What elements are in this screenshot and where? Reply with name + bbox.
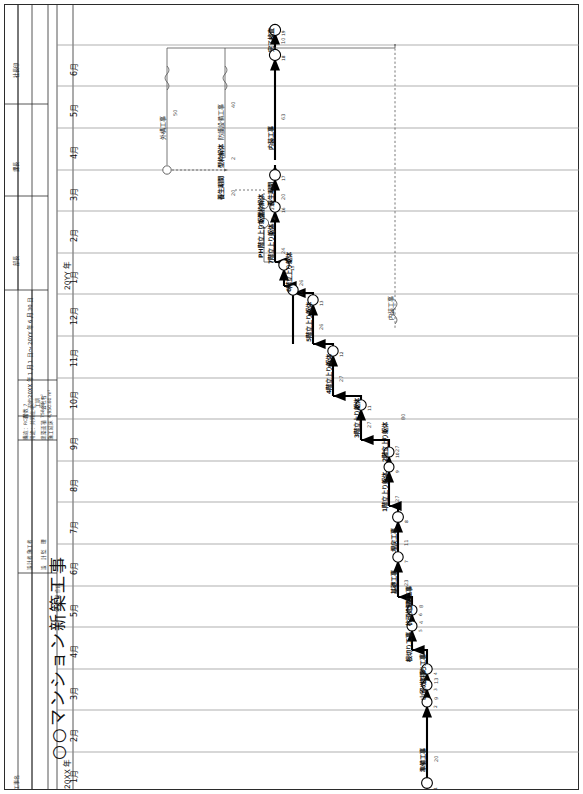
task-label-内装工事: 内装工事 [266, 126, 275, 150]
task-label-埋戻工事: 埋戻工事 [389, 528, 398, 552]
task-label-養生期間2: 養生期間 [216, 176, 225, 200]
meta-floors-value: 階数 7 [22, 404, 28, 418]
task-duration-1階立上り躯体: 27 [394, 496, 400, 502]
task-duration-3階立上り躯体: 27 [366, 422, 372, 428]
month-cell-12: 12月 [68, 307, 79, 325]
month-cell-11: 11月 [68, 349, 79, 367]
month-cell-18: 6月 [68, 63, 79, 76]
node-number-4: 4 [433, 672, 438, 675]
task-label-内装工事(ダミー): 内装工事 [386, 296, 395, 320]
task-label-4階立上り躯体: 4階立上り躯体 [324, 354, 333, 394]
task-label-基礎工事: 基礎工事 [389, 570, 398, 594]
task-duration-養生期間2: 20 [230, 190, 236, 196]
task-duration-基礎工事: 23 [403, 580, 409, 586]
node-number-15: 15 [290, 265, 295, 271]
month-cell-7: 7月 [68, 520, 79, 533]
node-number-10: 10 [395, 452, 400, 458]
month-year-1: 20XX 年 [61, 760, 72, 789]
meta-floor-area-value: 4,950.60 m² [47, 390, 52, 418]
task-label-杭打ち工事: 杭打ち工事 [418, 654, 427, 684]
creation-date-line: 年 月 日 作成 [54, 583, 60, 612]
task-duration-杭頭処理: 4 [418, 621, 424, 624]
meta-designer-label: 設計者 施工者 [26, 539, 32, 570]
node-number-20: 20 [270, 223, 275, 229]
approval-cell-1-label: 課長 [12, 162, 19, 172]
month-cell-5: 5月 [68, 604, 79, 617]
task-duration-埋戻工事: 11 [403, 540, 409, 546]
month-cell-6: 6月 [68, 562, 79, 575]
node-number-7: 7 [404, 560, 409, 563]
task-duration-5階立上り躯体: 26 [318, 324, 324, 330]
month-cell-16: 4月 [68, 146, 79, 159]
node-number-19: 19 [281, 30, 286, 36]
task-label-1階立上り躯体: 1階立上り躯体 [380, 472, 389, 512]
node-number-14: 14 [299, 290, 304, 296]
contract-period: 20XX 年 1 月 1 日 ～ 20YY 年 6 月 30 日 [26, 298, 34, 398]
node-number-13: 13 [319, 300, 324, 306]
task-label-PH階立上り躯体: PH階立上り躯体 [256, 212, 265, 258]
task-label-根切り工事: 根切り工事 [404, 632, 413, 662]
task-label-養生期間: 養生期間 [266, 182, 275, 206]
task-label-型枠解体2: 型枠解体 [216, 144, 225, 168]
month-cell-8: 8月 [68, 479, 79, 492]
task-duration-防護設備工事: 40 [230, 102, 236, 108]
task-duration-型枠解体2: 2 [230, 157, 236, 160]
task-label-2階立上り躯体: 2階立上り躯体 [380, 422, 389, 462]
month-cell-9: 9月 [68, 437, 79, 450]
task-duration-7階立上り躯体: 24 [280, 248, 286, 254]
meta-building-area-label: 建築面積 [40, 420, 46, 440]
task-duration-完了検査: 10 [280, 38, 286, 44]
node-number-8: 8 [404, 520, 409, 523]
node-number-6: 6 [418, 613, 423, 616]
month-cell-10: 10月 [68, 391, 79, 409]
month-cell-17: 5月 [68, 104, 79, 117]
task-label-防護設備工事: 防護設備工事 [216, 104, 225, 140]
month-cell-3: 3月 [68, 687, 79, 700]
task-label-型枠解体: 型枠解体 [256, 194, 265, 218]
meta-usage-label: 用途：共同住宅 [29, 405, 35, 440]
meta-floor-area-label: 施工延床 [47, 420, 53, 440]
title-label: 工事名 [12, 775, 19, 790]
task-duration-4階立上り躯体: 27 [338, 376, 344, 382]
task-duration-山留め工事: 9 [433, 697, 439, 700]
meta-building-area-value: 758.86 m² [40, 394, 45, 418]
schedule-sheet: ○○マンション新築工事 工事名 年 月 日 作成 社長印 課長 部長 契約工期 … [0, 0, 583, 794]
node-number-1: 1 [433, 787, 438, 790]
node-number-18: 18 [281, 55, 286, 61]
task-label-外構工事: 外構工事 [158, 116, 167, 140]
node-number-17: 17 [281, 175, 286, 181]
month-cell-14: 2月 [68, 229, 79, 242]
node-number-16: 16 [281, 207, 286, 213]
node-number-2: 2 [433, 705, 438, 708]
node-number-5: 5 [418, 629, 423, 632]
task-duration-PH階立上り躯体: 12 [270, 230, 276, 236]
month-year-13: 20YY 年 [61, 262, 72, 290]
month-cell-15: 3月 [68, 188, 79, 201]
task-duration-養生期間: 20 [280, 194, 286, 200]
task-duration-土間・地業工事: 8 [418, 605, 424, 608]
task-label-準備工事: 準備工事 [418, 748, 427, 772]
node-number-12: 12 [339, 351, 344, 357]
task-label-5階立上り躯体: 5階立上り躯体 [304, 302, 313, 342]
sheet-border [4, 4, 579, 790]
task-label-6階立上り躯体: 6階立上り躯体 [284, 252, 293, 292]
approval-cell-2-label: 部長 [12, 256, 19, 266]
task-label-完了検査: 完了検査 [266, 28, 275, 52]
meta-supervision-label: 設 計 監 理 [40, 539, 46, 570]
task-duration-内装工事: 63 [280, 114, 286, 120]
task-duration-型枠解体: 2 [270, 217, 276, 220]
month-cell-4: 4月 [68, 645, 79, 658]
task-duration-準備工事: 20 [433, 756, 439, 762]
task-label-土間・地業工事: 土間工事 [404, 586, 413, 610]
node-number-9: 9 [395, 470, 400, 473]
task-duration-杭打ち工事: 13 [433, 678, 439, 684]
task-label-3階立上り躯体: 3階立上り躯体 [352, 398, 361, 438]
task-duration-内装工事(ダミー): 80 [400, 414, 406, 420]
approval-cell-0-label: 社長印 [12, 63, 19, 78]
task-duration-6階立上り躯体: 26 [298, 280, 304, 286]
node-number-11: 11 [367, 405, 372, 411]
task-duration-外構工事: 50 [172, 110, 178, 116]
month-cell-2: 2月 [68, 728, 79, 741]
node-number-3: 3 [433, 688, 438, 691]
node-number-21: 21 [270, 204, 275, 210]
